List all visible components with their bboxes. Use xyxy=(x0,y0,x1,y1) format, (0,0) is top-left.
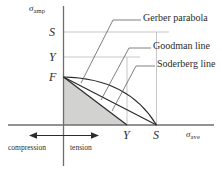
soderberg-line-label: Soderberg line xyxy=(157,59,215,69)
y-tick-label-y: Y xyxy=(49,51,56,63)
leader-line-soderberg xyxy=(112,66,155,111)
direction-arrow-head-left xyxy=(29,132,37,139)
y-axis-label: σamp xyxy=(29,4,45,13)
goodman-line-label: Goodman line xyxy=(153,41,210,51)
x-tick-label-y: Y xyxy=(123,129,130,141)
x-axis-subscript: ave xyxy=(190,133,200,140)
tension-label: tension xyxy=(70,144,92,152)
y-tick-label-s: S xyxy=(49,26,55,38)
fatigue-failure-diagram: σamp σave S Y F Y S Gerber parabola Good… xyxy=(0,0,222,172)
y-tick-label-f: F xyxy=(49,71,56,83)
x-axis-label: σave xyxy=(186,130,200,139)
direction-arrow-head-right xyxy=(91,132,99,139)
compression-label: compression xyxy=(8,144,46,152)
leader-line-goodman xyxy=(101,48,151,100)
gerber-parabola-label: Gerber parabola xyxy=(143,13,208,23)
y-axis-subscript: amp xyxy=(33,7,45,14)
x-tick-label-s: S xyxy=(153,129,159,141)
